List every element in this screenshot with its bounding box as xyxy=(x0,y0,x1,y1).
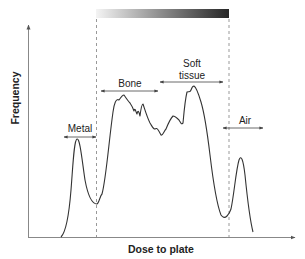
label-air: Air xyxy=(239,115,252,126)
label-soft-line1: Soft xyxy=(183,58,201,69)
label-bone: Bone xyxy=(118,78,142,89)
x-axis-label: Dose to plate xyxy=(128,243,194,255)
dose-gradient-bar xyxy=(96,9,229,18)
label-soft-line2: tissue xyxy=(179,70,206,81)
histogram-diagram: Metal Bone Soft tissue Air Dose to plate… xyxy=(0,0,305,259)
y-axis-label: Frequency xyxy=(9,71,21,124)
label-metal: Metal xyxy=(68,123,92,134)
histogram-curve xyxy=(61,86,253,237)
